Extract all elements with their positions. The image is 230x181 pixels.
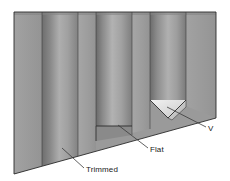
groove-curved-v-bottom [150, 12, 186, 100]
panel-flat-2 [78, 12, 96, 156]
label-flat: Flat [150, 145, 164, 154]
groove-curved-trimmed [42, 12, 78, 166]
label-trimmed: Trimmed [86, 165, 118, 174]
label-v: V [208, 124, 214, 133]
groove-curved-flat-bottom [96, 12, 132, 126]
grooved-block-drawing: Trimmed Flat V [0, 0, 230, 181]
panel-flat-1 [14, 12, 42, 174]
technical-illustration-figure: Trimmed Flat V [0, 0, 230, 181]
panel-flat-4 [186, 12, 216, 118]
panel-flat-3 [132, 12, 150, 133]
